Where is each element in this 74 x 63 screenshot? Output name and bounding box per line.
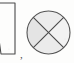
figure-canvas: , <box>0 0 74 63</box>
comma-separator: , <box>20 48 23 60</box>
geometry-figure: , <box>0 0 74 63</box>
circle-with-diagonals-shape <box>27 11 70 54</box>
